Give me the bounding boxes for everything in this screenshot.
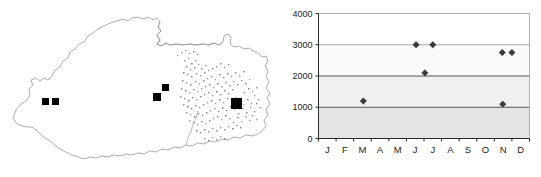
y-tick-label-1000: 1000 bbox=[292, 102, 312, 112]
map-marker-west-a bbox=[42, 98, 49, 105]
country-outline bbox=[13, 17, 270, 159]
map-marker-west-b bbox=[52, 98, 59, 105]
x-tick-label-10: N bbox=[500, 144, 507, 155]
x-tick-label-0: J bbox=[325, 144, 330, 155]
x-tick-label-8: S bbox=[465, 144, 471, 155]
x-axis-ticks: JFMAMJJASOND bbox=[319, 139, 530, 155]
x-tick-label-7: A bbox=[447, 144, 454, 155]
map-marker-central-lower bbox=[153, 93, 161, 101]
y-tick-label-4000: 4000 bbox=[292, 9, 312, 19]
plot-band-3 bbox=[319, 107, 530, 138]
x-tick-label-6: J bbox=[430, 144, 435, 155]
scatter-chart: 01000200030004000 JFMAMJJASOND bbox=[283, 0, 541, 177]
internal-boundary-line bbox=[157, 22, 223, 46]
x-tick-label-9: O bbox=[482, 144, 489, 155]
map-marker-central-upper bbox=[162, 84, 169, 91]
distribution-map-panel bbox=[0, 0, 280, 177]
y-tick-label-2000: 2000 bbox=[292, 71, 312, 81]
y-axis-ticks: 01000200030004000 bbox=[292, 9, 318, 144]
seasonality-scatter-panel: 01000200030004000 JFMAMJJASOND bbox=[283, 0, 541, 177]
x-tick-label-1: F bbox=[342, 144, 348, 155]
x-tick-label-3: A bbox=[377, 144, 384, 155]
y-tick-label-3000: 3000 bbox=[292, 40, 312, 50]
figure-container: 01000200030004000 JFMAMJJASOND bbox=[0, 0, 541, 177]
map-marker-east-large bbox=[231, 98, 242, 109]
x-tick-label-4: M bbox=[394, 144, 402, 155]
x-tick-label-5: J bbox=[413, 144, 418, 155]
x-tick-label-11: D bbox=[517, 144, 524, 155]
plot-band-2 bbox=[319, 76, 530, 107]
x-tick-label-2: M bbox=[358, 144, 366, 155]
plot-band-0 bbox=[319, 14, 530, 45]
map-graphic bbox=[0, 0, 280, 177]
y-tick-label-0: 0 bbox=[307, 134, 312, 144]
